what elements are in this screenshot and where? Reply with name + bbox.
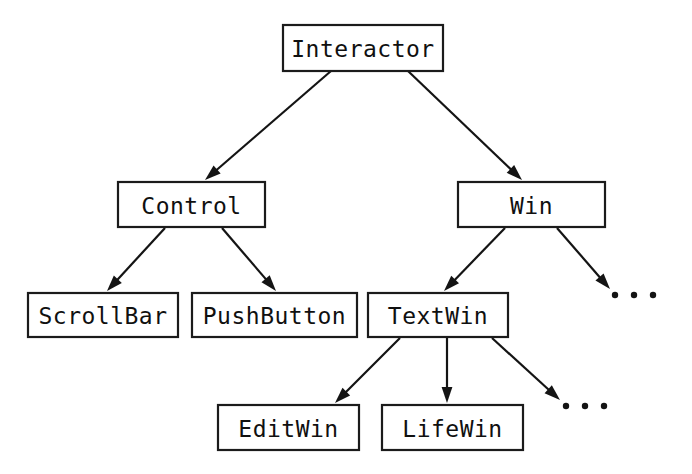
edge-line — [453, 228, 505, 282]
edge-interactor-to-control — [205, 71, 331, 180]
node-editwin[interactable]: EditWin — [218, 405, 359, 450]
node-lifewin[interactable]: LifeWin — [382, 405, 523, 450]
node-label-textwin: TextWin — [388, 303, 488, 329]
node-label-win: Win — [510, 193, 553, 219]
edge-interactor-to-win — [408, 71, 522, 180]
edge-textwin-to-editwin — [335, 338, 400, 403]
arrow-head-icon — [442, 387, 453, 403]
edge-win-to-textwin — [444, 228, 505, 291]
ellipsis-ellipsis-textwin — [563, 403, 607, 409]
edge-line — [344, 338, 400, 394]
node-label-lifewin: LifeWin — [402, 416, 502, 442]
edge-line — [408, 71, 513, 171]
node-scrollbar[interactable]: ScrollBar — [28, 293, 178, 337]
edges-layer — [107, 71, 610, 403]
node-label-pushbutton: PushButton — [203, 303, 346, 329]
node-label-editwin: EditWin — [238, 416, 338, 442]
ellipsis-dot — [631, 292, 637, 298]
node-textwin[interactable]: TextWin — [368, 293, 508, 337]
edge-control-to-pushbutton — [222, 228, 276, 291]
node-label-scrollbar: ScrollBar — [38, 303, 167, 329]
edge-win-to-ellipsis-win — [557, 228, 610, 289]
edge-line — [492, 338, 550, 391]
ellipsis-dot — [650, 292, 656, 298]
hierarchy-svg: InteractorControlWinScrollBarPushButtonT… — [0, 0, 692, 474]
node-interactor[interactable]: Interactor — [283, 25, 443, 71]
ellipsis-dot — [612, 292, 618, 298]
edge-line — [222, 228, 268, 281]
edge-textwin-to-ellipsis-textwin — [492, 338, 560, 400]
node-label-interactor: Interactor — [291, 36, 434, 62]
ellipsis-dot — [601, 403, 607, 409]
nodes-layer: InteractorControlWinScrollBarPushButtonT… — [28, 25, 605, 450]
ellipsis-dot — [582, 403, 588, 409]
node-win[interactable]: Win — [458, 182, 605, 227]
node-label-control: Control — [141, 193, 241, 219]
edge-line — [116, 228, 165, 281]
edge-line — [215, 71, 331, 171]
ellipses-layer — [563, 292, 656, 409]
edge-line — [557, 228, 601, 279]
ellipsis-ellipsis-win — [612, 292, 656, 298]
ellipsis-dot — [563, 403, 569, 409]
edge-textwin-to-lifewin — [442, 338, 453, 403]
node-pushbutton[interactable]: PushButton — [192, 293, 357, 337]
edge-control-to-scrollbar — [107, 228, 165, 291]
node-control[interactable]: Control — [118, 182, 265, 227]
class-hierarchy-diagram: InteractorControlWinScrollBarPushButtonT… — [0, 0, 692, 474]
